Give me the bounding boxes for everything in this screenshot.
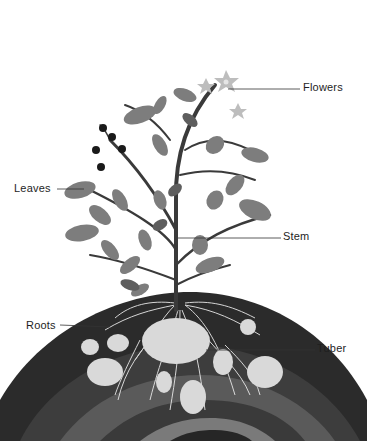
potato-plant-diagram xyxy=(0,0,367,441)
berries xyxy=(92,124,126,171)
flower-centers xyxy=(224,80,229,85)
label-leaves: Leaves xyxy=(14,182,51,194)
label-tuber: Tuber xyxy=(317,342,346,354)
label-stem: Stem xyxy=(283,230,309,242)
label-flowers: Flowers xyxy=(303,81,343,93)
flowers xyxy=(197,70,247,119)
main-tuber xyxy=(142,318,210,364)
label-roots: Roots xyxy=(26,319,56,331)
